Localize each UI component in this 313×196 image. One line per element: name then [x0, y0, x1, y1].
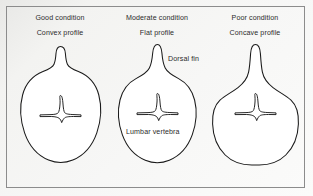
- annotation-lumbar-vertebra: Lumbar vertebra: [126, 129, 180, 136]
- column-label-convex-profile: Convex profile: [37, 30, 84, 37]
- figure-root: Good condition Convex profile Moderate c…: [0, 0, 313, 196]
- column-label-poor-condition: Poor condition: [232, 15, 279, 22]
- column-label-flat-profile: Flat profile: [140, 30, 174, 37]
- annotation-dorsal-fin: Dorsal fin: [168, 56, 199, 63]
- column-label-good-condition: Good condition: [35, 15, 84, 22]
- column-label-concave-profile: Concave profile: [230, 30, 281, 37]
- column-label-moderate-condition: Moderate condition: [126, 15, 188, 22]
